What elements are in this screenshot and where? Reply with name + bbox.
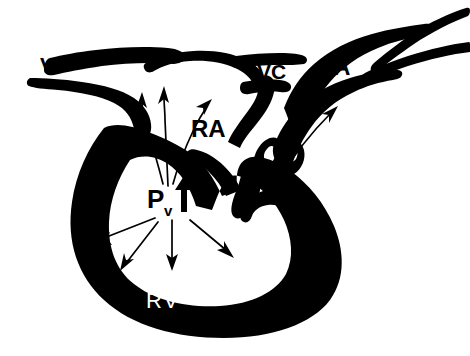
myocardium-silhouette — [27, 8, 470, 338]
heart-diagram-svg: VC VC PA RA PS RV P v — [0, 0, 470, 356]
radiating-arrow-lower-right — [190, 220, 226, 250]
anatomical-figure: VC VC PA RA PS RV P v — [0, 0, 470, 356]
label-right-ventricle: RV — [146, 288, 180, 313]
label-pulmonary-artery: PA — [320, 54, 350, 80]
label-right-atrium: RA — [191, 115, 226, 142]
label-vena-cava-right: VC — [257, 60, 286, 83]
regurgitant-arrow-right-head — [196, 99, 212, 115]
label-vena-cava-left: VC — [40, 53, 69, 76]
label-ventricular-pressure: P — [147, 184, 164, 214]
label-ventricular-pressure-subscript: v — [164, 202, 173, 219]
label-pulmonary-stenosis: PS — [265, 176, 293, 199]
